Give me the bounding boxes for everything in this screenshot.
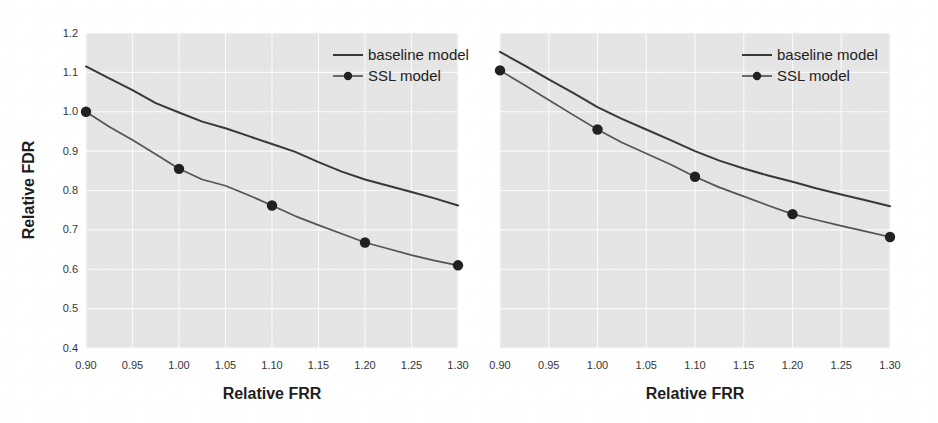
scan-grain-overlay — [0, 0, 938, 423]
figure-canvas: 1.2 1.1 1.0 0.9 0.8 0.7 0.6 0.5 0.4 0.90… — [0, 0, 938, 423]
